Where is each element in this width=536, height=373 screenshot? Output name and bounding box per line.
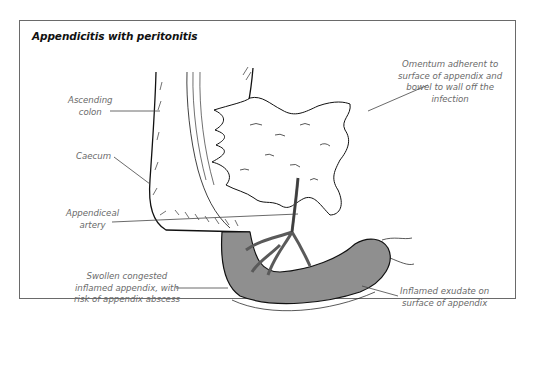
label-ascending-colon: Ascendingcolon (68, 95, 113, 118)
omentum-drawing (212, 97, 350, 215)
label-caecum: Caecum (76, 151, 111, 163)
label-inflamed-exudate: Inflamed exudate onsurface of appendix (400, 286, 489, 309)
label-swollen-appendix: Swollen congestedinflamed appendix, with… (74, 271, 180, 306)
label-appendiceal-artery: Appendicealartery (66, 208, 119, 231)
appendicitis-illustration (0, 0, 536, 373)
label-omentum: Omentum adherent tosurface of appendix a… (398, 59, 502, 105)
